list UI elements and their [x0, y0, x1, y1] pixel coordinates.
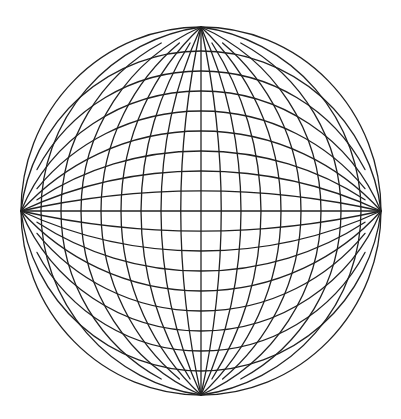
sphere-grid-drawing — [0, 0, 401, 419]
